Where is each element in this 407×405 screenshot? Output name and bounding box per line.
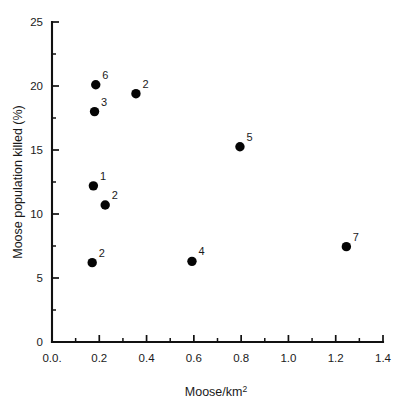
data-point-label: 3 bbox=[101, 96, 107, 108]
data-point-label: 2 bbox=[99, 247, 105, 259]
data-point bbox=[89, 181, 98, 190]
x-tick-label: 1.4 bbox=[375, 352, 392, 364]
y-tick-label: 15 bbox=[30, 144, 43, 156]
data-point bbox=[91, 80, 100, 89]
data-point bbox=[235, 142, 244, 151]
data-point bbox=[187, 257, 196, 266]
y-tick-label: 20 bbox=[30, 80, 43, 92]
data-point-label: 2 bbox=[112, 189, 118, 201]
x-tick-label: 0.2 bbox=[91, 352, 107, 364]
y-tick-label: 10 bbox=[30, 208, 43, 220]
x-tick-label: 0.6 bbox=[186, 352, 202, 364]
data-point bbox=[100, 200, 109, 209]
data-point-label: 4 bbox=[198, 245, 204, 257]
x-tick-label: 0.0. bbox=[42, 352, 61, 364]
data-point bbox=[90, 107, 99, 116]
x-tick-label: 1.0 bbox=[280, 352, 296, 364]
x-tick-label: 1.2 bbox=[328, 352, 344, 364]
data-point bbox=[87, 258, 96, 267]
data-point-label: 7 bbox=[353, 231, 359, 243]
data-point-label: 6 bbox=[102, 69, 108, 81]
y-tick-label: 5 bbox=[37, 272, 43, 284]
y-tick-label: 25 bbox=[30, 16, 43, 28]
x-axis-title: Moose/km2 bbox=[185, 384, 248, 399]
scatter-plot-figure: 0.0.0.20.40.60.81.01.21.40510152025 6325… bbox=[0, 0, 407, 405]
data-point-label: 2 bbox=[142, 78, 148, 90]
data-point-label: 1 bbox=[100, 170, 106, 182]
y-tick-label: 0 bbox=[37, 336, 43, 348]
axis-tick-labels: 0.0.0.20.40.60.81.01.21.40510152025 bbox=[30, 16, 391, 364]
y-axis-title: Moose population killed (%) bbox=[11, 105, 25, 259]
plot-canvas: 0.0.0.20.40.60.81.01.21.40510152025 6325… bbox=[0, 0, 407, 405]
x-tick-label: 0.8 bbox=[233, 352, 249, 364]
x-tick-label: 0.4 bbox=[139, 352, 156, 364]
data-points bbox=[87, 80, 351, 267]
data-point-label: 5 bbox=[246, 131, 252, 143]
data-point bbox=[131, 89, 140, 98]
data-point bbox=[342, 242, 351, 251]
